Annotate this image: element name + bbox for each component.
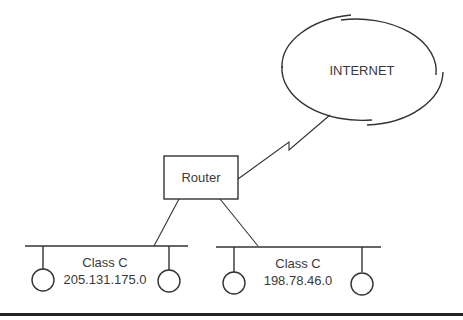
- network-class-label: Class C: [275, 256, 321, 271]
- wan-link: [238, 115, 330, 179]
- network-class-label: Class C: [82, 255, 128, 270]
- host-icon: [351, 273, 373, 295]
- host-icon: [158, 270, 180, 292]
- host-icon: [32, 269, 54, 291]
- host-icon: [223, 272, 245, 294]
- internet-cloud: [282, 15, 351, 68]
- network-address: 198.78.46.0: [264, 273, 333, 288]
- network-address: 205.131.175.0: [63, 272, 146, 287]
- bottom-rule: [0, 313, 463, 316]
- router-label: Router: [181, 170, 220, 185]
- internet-label: INTERNET: [330, 63, 395, 78]
